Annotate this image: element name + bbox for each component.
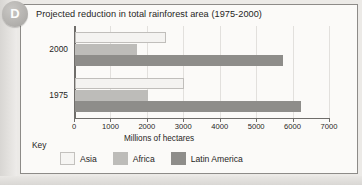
figure-letter-badge-label: D (2, 1, 28, 27)
plot-area: 0100020003000400050006000700020001975Mil… (74, 26, 329, 118)
x-axis-tick-label: 7000 (321, 122, 338, 131)
x-axis-tick-label: 2000 (138, 122, 155, 131)
x-axis-tick-label: 4000 (211, 122, 228, 131)
x-axis-tick-label: 5000 (248, 122, 265, 131)
y-axis-category-label-2000: 2000 (26, 44, 68, 54)
legend: AsiaAfricaLatin America (60, 152, 259, 165)
legend-title: Key (32, 140, 46, 150)
page-gutter-bottom (0, 176, 362, 185)
x-axis-tick (220, 118, 221, 122)
x-axis-tick (293, 118, 294, 122)
legend-swatch-africa (113, 152, 128, 165)
bar-asia-1975 (75, 78, 184, 89)
x-axis-tick-label: 3000 (175, 122, 192, 131)
bar-latin-1975 (75, 101, 301, 112)
legend-swatch-latin (171, 152, 186, 165)
legend-item-asia: Asia (60, 152, 113, 165)
x-axis-title: Millions of hectares (124, 134, 194, 143)
gridline (329, 26, 330, 118)
chart-title: Projected reduction in total rainforest … (36, 9, 262, 19)
x-axis-tick (183, 118, 184, 122)
x-axis-tick (74, 118, 75, 122)
x-axis-tick (110, 118, 111, 122)
legend-label-latin: Latin America (191, 154, 243, 164)
legend-item-africa: Africa (113, 152, 171, 165)
bar-latin-2000 (75, 55, 283, 66)
x-axis-tick (256, 118, 257, 122)
y-axis-category-label-1975: 1975 (26, 90, 68, 100)
figure-screenshot: D Projected reduction in total rainfores… (0, 0, 362, 185)
bar-africa-1975 (75, 90, 148, 101)
x-axis-tick (329, 118, 330, 122)
bar-africa-2000 (75, 44, 137, 55)
x-axis-tick-label: 1000 (102, 122, 119, 131)
legend-item-latin: Latin America (171, 152, 259, 165)
x-axis-tick (147, 118, 148, 122)
figure-letter-badge: D (2, 1, 28, 27)
x-axis-tick-label: 0 (72, 122, 76, 131)
legend-swatch-asia (60, 152, 75, 165)
x-axis-tick-label: 6000 (284, 122, 301, 131)
page-gutter-left (0, 0, 17, 185)
x-axis-line (74, 118, 329, 119)
legend-label-asia: Asia (80, 154, 97, 164)
legend-label-africa: Africa (133, 154, 155, 164)
bar-asia-2000 (75, 32, 166, 43)
